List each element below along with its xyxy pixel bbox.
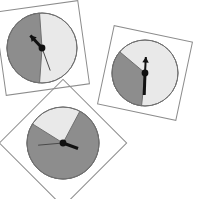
clock-hub [142, 70, 149, 77]
clock-right[interactable] [98, 26, 193, 121]
clock-scene-svg [0, 0, 197, 199]
clock-hub [39, 45, 46, 52]
clock-hub [60, 140, 67, 147]
clock-top-left[interactable] [0, 1, 89, 96]
clock-bottom-left[interactable] [0, 79, 127, 199]
clock-dark-sector [7, 13, 42, 83]
clock-scene [0, 0, 197, 199]
